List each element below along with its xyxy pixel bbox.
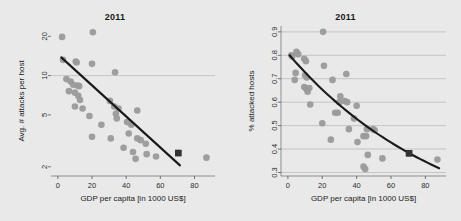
data-point[interactable] xyxy=(304,88,311,95)
data-point[interactable] xyxy=(130,149,137,156)
x-tick-label: 60 xyxy=(156,181,164,190)
y-tick-label: 0.9 xyxy=(270,27,279,37)
data-point[interactable] xyxy=(353,102,360,109)
data-point[interactable] xyxy=(59,34,66,41)
y-tick-label: 0.6 xyxy=(270,97,279,107)
data-point[interactable] xyxy=(307,101,314,108)
data-point[interactable] xyxy=(76,83,83,90)
data-point[interactable] xyxy=(291,77,298,84)
x-tick-label: 0 xyxy=(56,181,60,190)
y-tick-label: 0.4 xyxy=(270,144,279,154)
figure-root: 2011 020406080251020GDP per capita [in 1… xyxy=(0,0,461,221)
y-axis-title: Avg. # attacks per host xyxy=(17,60,26,142)
x-tick-label: 20 xyxy=(318,181,326,190)
fit-line-path xyxy=(61,57,180,165)
data-point[interactable] xyxy=(107,135,114,142)
gridlines xyxy=(281,32,446,173)
y-axis-title: % attacked hosts xyxy=(247,71,256,132)
data-point[interactable] xyxy=(203,154,210,161)
x-tick-label: 40 xyxy=(352,181,360,190)
data-points xyxy=(288,29,441,173)
data-point[interactable] xyxy=(77,97,84,104)
data-point[interactable] xyxy=(66,88,73,95)
y-tick-label: 20 xyxy=(40,32,49,40)
x-axis-title: GDP per capita [in 1000 US$] xyxy=(311,194,416,203)
chart-panel-left: 2011 020406080251020GDP per capita [in 1… xyxy=(0,0,230,221)
data-point[interactable] xyxy=(365,152,372,159)
data-point[interactable] xyxy=(113,115,120,122)
scatter-plot-right: 0204060800.30.40.50.60.70.80.9GDP per ca… xyxy=(230,0,461,221)
data-point[interactable] xyxy=(132,156,139,163)
data-point[interactable] xyxy=(125,130,132,137)
x-tick-label: 40 xyxy=(122,181,130,190)
data-point[interactable] xyxy=(319,120,326,127)
x-tick-label: 80 xyxy=(190,181,198,190)
data-point[interactable] xyxy=(98,121,105,128)
data-point[interactable] xyxy=(153,153,160,160)
data-point[interactable] xyxy=(295,51,302,58)
data-point[interactable] xyxy=(86,113,93,120)
data-point[interactable] xyxy=(134,107,141,114)
data-point[interactable] xyxy=(303,58,310,65)
data-point[interactable] xyxy=(143,141,150,148)
data-point[interactable] xyxy=(379,155,386,162)
fit-line-path xyxy=(290,55,440,168)
data-point[interactable] xyxy=(120,144,127,151)
data-point[interactable] xyxy=(79,105,86,112)
data-point[interactable] xyxy=(328,136,335,143)
x-tick-label: 60 xyxy=(387,181,395,190)
axes xyxy=(281,26,446,176)
data-point[interactable] xyxy=(72,103,79,110)
y-tick-label: 0.3 xyxy=(270,167,279,177)
y-tick-label: 0.5 xyxy=(270,120,279,130)
data-point[interactable] xyxy=(143,151,150,158)
scatter-plot-left: 020406080251020GDP per capita [in 1000 U… xyxy=(0,0,230,221)
data-point[interactable] xyxy=(363,133,370,140)
data-point[interactable] xyxy=(90,29,97,36)
data-point[interactable] xyxy=(89,61,96,68)
highlight-group xyxy=(175,150,181,156)
data-point[interactable] xyxy=(362,166,369,173)
data-point[interactable] xyxy=(89,133,96,140)
data-point[interactable] xyxy=(321,63,328,70)
y-tick-label: 0.7 xyxy=(270,74,279,84)
x-tick-label: 20 xyxy=(88,181,96,190)
data-point[interactable] xyxy=(112,69,119,76)
data-point[interactable] xyxy=(334,109,341,116)
data-point[interactable] xyxy=(346,126,353,133)
fit-line xyxy=(290,55,440,168)
y-tick-label: 2 xyxy=(40,165,49,169)
highlight-marker[interactable] xyxy=(406,150,412,156)
highlight-group xyxy=(406,150,412,156)
data-point[interactable] xyxy=(292,70,299,77)
data-point[interactable] xyxy=(329,77,336,84)
y-tick-label: 5 xyxy=(40,113,49,117)
data-point[interactable] xyxy=(354,139,361,146)
data-point[interactable] xyxy=(434,156,441,163)
x-axis-title: GDP per capita [in 1000 US$] xyxy=(80,194,185,203)
highlight-marker[interactable] xyxy=(175,150,181,156)
y-tick-label: 0.8 xyxy=(270,50,279,60)
x-tick-label: 0 xyxy=(286,181,290,190)
y-tick-label: 10 xyxy=(40,71,49,79)
data-point[interactable] xyxy=(344,99,351,106)
x-tick-label: 80 xyxy=(421,181,429,190)
data-point[interactable] xyxy=(320,29,327,36)
data-points xyxy=(59,29,210,162)
fit-line xyxy=(61,57,180,165)
chart-panel-right: 2011 0204060800.30.40.50.60.70.80.9GDP p… xyxy=(230,0,461,221)
data-point[interactable] xyxy=(343,71,350,78)
data-point[interactable] xyxy=(73,59,80,66)
